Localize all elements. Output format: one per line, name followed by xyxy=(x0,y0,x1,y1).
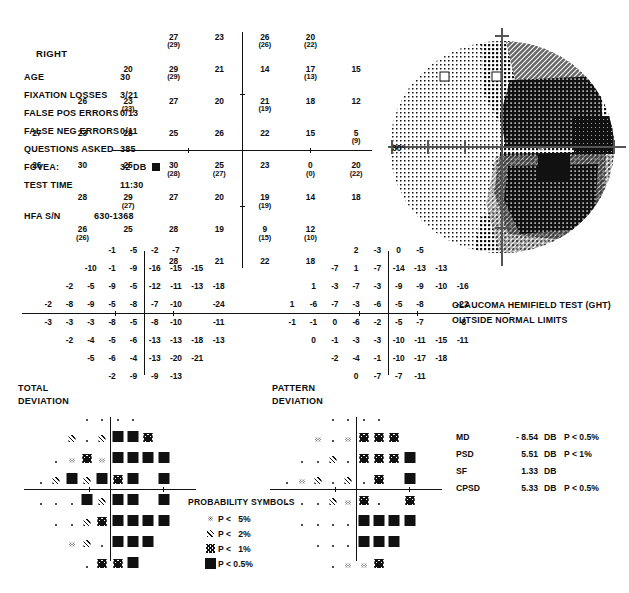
probability-symbol-05-icon xyxy=(143,536,154,547)
probability-dot-icon xyxy=(347,419,349,421)
sensitivity-cell: 23 xyxy=(210,33,228,41)
deviation-cell: -4 xyxy=(347,354,365,362)
sensitivity-cell: 28 xyxy=(73,193,91,201)
deviation-cell: -3 xyxy=(82,318,100,326)
deviation-cell: 1 xyxy=(304,282,322,290)
sensitivity-value: 23 xyxy=(215,32,224,42)
probability-dot-icon xyxy=(378,419,380,421)
deviation-cell: 2 xyxy=(347,246,365,254)
deviation-cell: -3 xyxy=(368,336,386,344)
probability-cell xyxy=(286,470,288,488)
probability-cell xyxy=(143,449,154,467)
probability-cell xyxy=(53,470,60,488)
sensitivity-cell: 18 xyxy=(347,193,365,201)
deviation-cell: -5 xyxy=(82,282,100,290)
probability-cell xyxy=(127,449,138,467)
sensitivity-value: 15 xyxy=(306,128,315,138)
deviation-cell: -8 xyxy=(60,300,78,308)
probability-symbol-1-icon xyxy=(374,433,383,442)
probability-symbol-1-icon xyxy=(359,496,368,505)
probability-cell xyxy=(330,449,337,467)
probability-cell xyxy=(101,533,103,551)
probability-symbol-1-icon xyxy=(374,559,383,568)
info-label: TEST TIME xyxy=(24,180,120,190)
deviation-cell: -8 xyxy=(103,318,121,326)
probability-cell xyxy=(330,491,337,509)
axis-tick xyxy=(173,311,174,316)
probability-symbol-1-icon xyxy=(202,544,218,553)
probability-dot-icon xyxy=(332,524,334,526)
deviation-cell: -2 xyxy=(60,282,78,290)
deviation-cell: -16 xyxy=(454,282,472,290)
probability-dot-icon xyxy=(101,419,103,421)
info-row-test-time: TEST TIME 11:30 xyxy=(24,176,189,194)
deviation-cell: -2 xyxy=(368,318,386,326)
probability-dot-icon xyxy=(347,524,349,526)
probability-symbol-05-icon xyxy=(158,494,169,505)
serial-value: 630-1368 xyxy=(94,211,134,221)
sensitivity-value: 30 xyxy=(78,160,87,170)
probability-dot-icon xyxy=(101,545,103,547)
deviation-cell: -5 xyxy=(390,318,408,326)
probability-cell xyxy=(86,554,88,572)
grayscale-map xyxy=(388,28,626,266)
deviation-cell: -17 xyxy=(411,354,429,362)
deviation-cell: -6 xyxy=(304,300,322,308)
sensitivity-retest-value: (22) xyxy=(301,41,319,48)
deviation-cell: -7 xyxy=(411,318,429,326)
deviation-cell: -7 xyxy=(146,300,164,308)
probability-dot-icon xyxy=(86,419,88,421)
sensitivity-value: 15 xyxy=(351,64,360,74)
sensitivity-cell: 25 xyxy=(119,225,137,233)
global-indices: MD - 8.54 DB P < 0.5% PSD 5.51 DB P < 1%… xyxy=(456,432,599,500)
info-label: QUESTIONS ASKED xyxy=(24,144,120,154)
sensitivity-cell: 29(29) xyxy=(165,65,183,81)
probability-cell xyxy=(112,533,123,551)
sensitivity-value: 26 xyxy=(32,160,41,170)
probability-cell xyxy=(100,449,105,467)
probability-cell xyxy=(69,449,74,467)
info-label: AGE xyxy=(24,72,120,82)
deviation-cell: -10 xyxy=(432,282,450,290)
probability-cell xyxy=(317,533,319,551)
probability-symbol-2-icon xyxy=(99,498,106,505)
deviation-cell: -5 xyxy=(124,282,142,290)
probability-legend-item-1: P < 1% xyxy=(188,541,295,556)
probability-cell xyxy=(84,533,91,551)
probability-symbol-2-icon xyxy=(330,456,337,463)
info-value: 11:30 xyxy=(120,180,144,190)
probability-cell xyxy=(390,449,399,467)
deviation-cell: -7 xyxy=(368,372,386,380)
probability-symbol-5-icon xyxy=(100,458,105,463)
probability-cell xyxy=(132,407,134,425)
deviation-cell: -10 xyxy=(167,318,185,326)
deviation-cell: -11 xyxy=(454,336,472,344)
probability-dot-icon xyxy=(317,461,319,463)
axis-tick xyxy=(188,148,189,153)
deviation-cell: -2 xyxy=(60,336,78,344)
probability-dot-icon xyxy=(332,419,334,421)
probability-symbol-1-icon xyxy=(98,517,107,526)
sensitivity-cell: 26(26) xyxy=(256,33,274,49)
probability-dot-icon xyxy=(301,461,303,463)
probability-cell xyxy=(84,470,91,488)
sensitivity-cell: 23 xyxy=(256,161,274,169)
sensitivity-retest-value: (23) xyxy=(119,105,137,112)
sensitivity-retest-value: (26) xyxy=(256,41,274,48)
probability-cell xyxy=(347,449,349,467)
probability-dot-icon xyxy=(55,461,57,463)
probability-symbol-05-icon xyxy=(143,452,154,463)
probability-symbol-05-icon xyxy=(127,536,138,547)
probability-legend-label: P < 1% xyxy=(218,544,251,554)
sensitivity-cell: 28 xyxy=(165,225,183,233)
index-pvalue: P < 0.5% xyxy=(564,483,599,493)
fovea-symbol-icon xyxy=(152,163,160,171)
deviation-cell: 1 xyxy=(283,300,301,308)
probability-cell xyxy=(317,449,319,467)
deviation-cell: 0 xyxy=(390,246,408,254)
deviation-cell: -21 xyxy=(188,354,206,362)
probability-cell xyxy=(314,470,321,488)
sensitivity-cell: 14 xyxy=(301,193,319,201)
sensitivity-value: 25 xyxy=(123,224,132,234)
probability-legend-label: P < 2% xyxy=(218,529,251,539)
